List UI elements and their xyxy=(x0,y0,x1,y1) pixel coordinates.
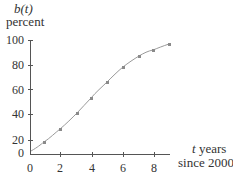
data-point xyxy=(106,81,109,84)
data-point xyxy=(90,97,93,100)
data-point xyxy=(43,141,46,144)
data-point xyxy=(122,66,125,69)
data-markers xyxy=(43,43,171,144)
data-point xyxy=(152,49,155,52)
data-point xyxy=(168,43,171,46)
data-point xyxy=(138,55,141,58)
data-point xyxy=(76,112,79,115)
data-point xyxy=(59,128,62,131)
axes xyxy=(28,40,170,157)
curve xyxy=(31,44,169,151)
plot-area xyxy=(0,0,233,183)
